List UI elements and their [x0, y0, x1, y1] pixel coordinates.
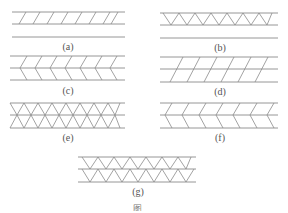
panel-label-c: (c)	[62, 85, 73, 96]
panel-c-structure	[10, 56, 125, 80]
panel-g-structure	[78, 157, 196, 182]
panel-label-b: (b)	[214, 42, 226, 53]
panel-b-structure	[160, 13, 278, 38]
panel-e-structure	[10, 103, 125, 128]
panel-d-structure	[160, 57, 278, 82]
truss-core-sandwich-diagram	[0, 0, 288, 213]
panel-label-d: (d)	[214, 86, 226, 97]
panel-f-structure	[160, 103, 278, 128]
panel-label-e: (e)	[62, 132, 73, 143]
panel-label-g: (g)	[132, 186, 144, 197]
panel-label-a: (a)	[62, 41, 73, 52]
figure-caption-fragment: 图	[133, 202, 142, 211]
panel-label-f: (f)	[215, 132, 225, 143]
panel-a-structure	[12, 12, 125, 37]
